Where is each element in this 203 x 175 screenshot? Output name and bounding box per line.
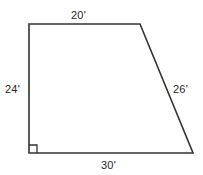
dimension-label-left: 24'	[5, 83, 20, 95]
dimension-label-bottom: 30'	[101, 159, 116, 171]
trapezoid-outline	[29, 24, 193, 153]
dimension-label-top: 20'	[71, 9, 86, 21]
geometry-figure: 20' 24' 26' 30'	[0, 0, 203, 175]
dimension-label-right: 26'	[173, 83, 188, 95]
